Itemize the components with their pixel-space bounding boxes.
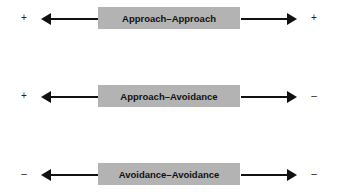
conflict-row-avoidance-avoidance: – Avoidance–Avoidance – [0,163,338,187]
left-sign: + [19,90,29,102]
conflict-box: Approach–Avoidance [98,85,240,107]
left-sign: – [19,168,29,180]
conflict-box: Avoidance–Avoidance [98,163,240,185]
left-sign: + [19,12,29,24]
conflict-row-approach-avoidance: + Approach–Avoidance – [0,85,338,109]
arrow-left-line [48,18,98,20]
arrow-right-icon [287,13,297,25]
conflict-row-approach-approach: + Approach–Approach + [0,7,338,31]
arrow-right-icon [287,169,297,181]
right-sign: – [309,90,319,102]
arrow-left-line [48,96,98,98]
arrow-right-icon [287,91,297,103]
arrow-right-line [241,174,291,176]
right-sign: – [309,168,319,180]
arrow-left-line [48,174,98,176]
conflict-box: Approach–Approach [98,7,240,29]
arrow-right-line [241,18,291,20]
arrow-right-line [241,96,291,98]
right-sign: + [309,12,319,24]
